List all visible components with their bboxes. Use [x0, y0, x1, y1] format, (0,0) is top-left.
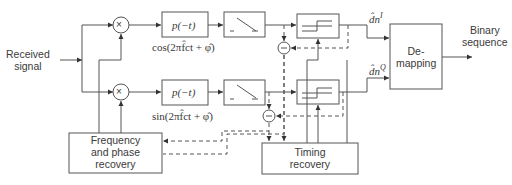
mixer-i-symbol: × — [116, 19, 122, 31]
demapping-label: De- mapping — [396, 45, 436, 69]
carrier-i-label: cos(2πf̂ct + φ̂) — [152, 41, 215, 53]
input-label: Received signal — [6, 48, 50, 72]
output-label: Binary sequence — [462, 24, 508, 48]
filter-i-label: p(−t) — [172, 19, 195, 31]
symbol-i-label: d̂nI — [369, 10, 383, 25]
mixer-q-symbol: × — [116, 86, 122, 98]
timing-label: Timing recovery — [262, 146, 358, 170]
carrier-q-label: sin(2πf̂ct + φ̂) — [152, 110, 213, 122]
decision-q — [297, 80, 339, 104]
sampler-q — [224, 80, 265, 105]
sampler-i — [224, 12, 265, 37]
filter-q-label: p(−t) — [172, 86, 195, 98]
symbol-q-label: d̂nQ — [369, 62, 386, 77]
freq-phase-label: Frequency and phase recovery — [69, 134, 162, 170]
